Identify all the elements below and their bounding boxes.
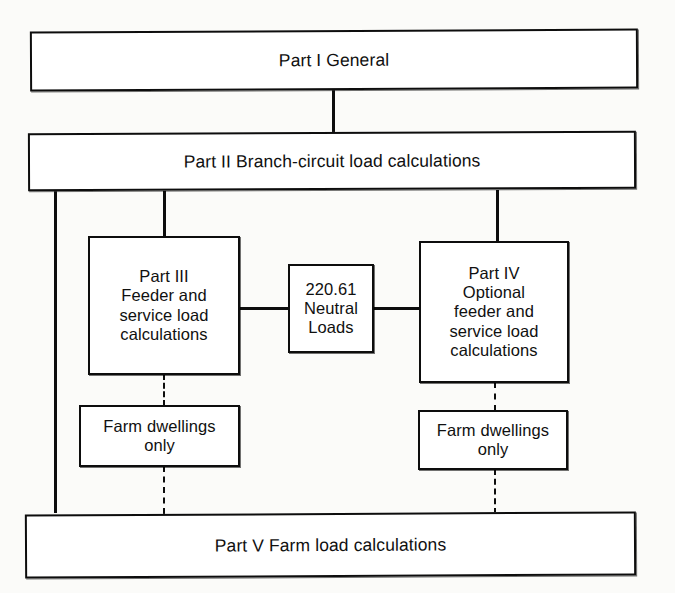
node-part-1-general[interactable]: Part I General xyxy=(30,29,638,92)
node-part-5-farm-load-label: Part V Farm load calculations xyxy=(215,534,447,556)
node-220-61-neutral-loads-label: 220.61 Neutral Loads xyxy=(304,280,358,338)
node-part-2-branch-circuit-label: Part II Branch-circuit load calculations xyxy=(184,150,481,172)
connector-part1-to-part2 xyxy=(332,88,335,134)
node-part-3-feeder-service-label: Part III Feeder and service load calcula… xyxy=(119,267,208,344)
node-part-3-feeder-service[interactable]: Part III Feeder and service load calcula… xyxy=(88,236,240,375)
connector-farm-left-to-part5 xyxy=(163,466,165,514)
connector-part3-to-farm-left xyxy=(163,374,165,406)
connector-neutral-to-part4 xyxy=(373,307,421,310)
node-part-4-optional-feeder-service[interactable]: Part IV Optional feeder and service load… xyxy=(419,241,569,383)
node-farm-dwellings-only-right-label: Farm dwellings only xyxy=(437,421,549,460)
node-part-1-general-label: Part I General xyxy=(279,49,389,70)
node-part-4-optional-feeder-service-label: Part IV Optional feeder and service load… xyxy=(449,264,538,360)
connector-farm-right-to-part5 xyxy=(494,469,496,514)
connector-part2-left-trunk xyxy=(54,188,57,513)
node-part-5-farm-load[interactable]: Part V Farm load calculations xyxy=(25,511,636,578)
node-farm-dwellings-only-right[interactable]: Farm dwellings only xyxy=(418,410,568,470)
node-farm-dwellings-only-left-label: Farm dwellings only xyxy=(103,417,215,456)
connector-part4-to-farm-right xyxy=(494,382,496,411)
connector-part2-to-part3 xyxy=(163,188,166,238)
connector-part2-to-part4 xyxy=(496,190,499,242)
node-farm-dwellings-only-left[interactable]: Farm dwellings only xyxy=(79,405,240,467)
node-part-2-branch-circuit[interactable]: Part II Branch-circuit load calculations xyxy=(28,131,636,191)
connector-part3-to-neutral xyxy=(238,307,290,310)
flow-diagram-canvas: Part I General Part II Branch-circuit lo… xyxy=(0,0,675,593)
node-220-61-neutral-loads[interactable]: 220.61 Neutral Loads xyxy=(288,264,374,353)
